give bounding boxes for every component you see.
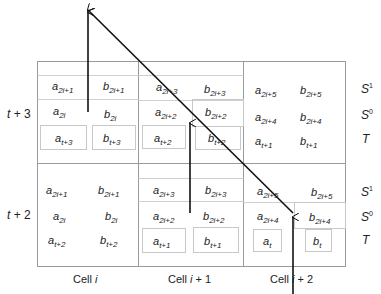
reg-r0c1-tb: bt+2 bbox=[208, 133, 225, 147]
legend-s1-bottom: S1 bbox=[361, 185, 373, 198]
reg-r1c2-ta: at bbox=[263, 236, 271, 250]
reg-r1c2-tb: bt bbox=[313, 236, 321, 250]
reg-r0c1-ta: at+2 bbox=[154, 133, 171, 147]
reg-r1c1-tb: bt+1 bbox=[204, 236, 221, 250]
reg-r0c1-s1a: a2i+3 bbox=[156, 82, 177, 96]
reg-r1c2-s0b: b2i+4 bbox=[309, 212, 330, 226]
reg-r0c0-s0b: b2i bbox=[104, 109, 116, 123]
reg-r1c2-s1a: a2i+5 bbox=[257, 186, 278, 200]
reg-r0c0-s1b: b2i+1 bbox=[103, 81, 124, 95]
reg-r1c0-ta: at+2 bbox=[48, 235, 65, 249]
reg-r1c0-s1b: b2i+1 bbox=[98, 185, 119, 199]
reg-r1c1-s1b: b2i+3 bbox=[205, 185, 226, 199]
reg-r1c1-s1a: a2i+3 bbox=[153, 185, 174, 199]
reg-r0c0-tb: bt+3 bbox=[103, 133, 120, 147]
legend-t-bottom: T bbox=[362, 234, 369, 246]
reg-r1c1-s0b: b2i+2 bbox=[203, 211, 224, 225]
reg-r0c0-s0a: a2i bbox=[53, 106, 65, 120]
reg-r1c1-ta: at+1 bbox=[153, 236, 170, 250]
reg-r0c0-ta: at+3 bbox=[55, 133, 72, 147]
reg-r0c2-s1a: a2i+5 bbox=[255, 85, 276, 99]
legend-s1-top: S1 bbox=[361, 82, 373, 95]
reg-r0c2-tb: bt+1 bbox=[300, 136, 317, 150]
reg-r0c2-s0b: b2i+4 bbox=[300, 112, 321, 126]
reg-r1c2-s0a: a2i+4 bbox=[257, 211, 278, 225]
systolic-cell-diagram: t + 3 t + 2 Cell i Cell i + 1 Cell i + 2… bbox=[0, 0, 381, 294]
reg-r1c1-s0a: a2i+2 bbox=[153, 211, 174, 225]
col-label-cell-i2: Cell i + 2 bbox=[270, 273, 313, 285]
reg-r0c2-ta: at+1 bbox=[255, 136, 272, 150]
reg-r0c1-s1b: b2i+3 bbox=[204, 84, 225, 98]
row-label-t2: t + 2 bbox=[7, 208, 31, 222]
col-label-cell-i: Cell i bbox=[73, 273, 97, 285]
reg-r0c1-s0a: a2i+2 bbox=[155, 107, 176, 121]
reg-r0c2-s0a: a2i+4 bbox=[255, 112, 276, 126]
reg-r1c0-tb: bt+2 bbox=[100, 235, 117, 249]
legend-t-top: T bbox=[362, 133, 369, 145]
diagram-canvas bbox=[0, 0, 381, 294]
reg-r1c0-s1a: a2i+1 bbox=[46, 185, 67, 199]
reg-r1c2-s1b: b2i+5 bbox=[311, 187, 332, 201]
reg-r0c2-s1b: b2i+5 bbox=[300, 85, 321, 99]
col-label-cell-i1: Cell i + 1 bbox=[168, 273, 211, 285]
legend-s0-top: S0 bbox=[361, 108, 373, 121]
legend-s0-bottom: S0 bbox=[361, 210, 373, 223]
reg-r1c0-s0a: a2i bbox=[53, 211, 65, 225]
reg-r0c0-s1a: a2i+1 bbox=[52, 81, 73, 95]
row-label-t3: t + 3 bbox=[7, 107, 31, 121]
reg-r0c1-s0b: b2i+2 bbox=[205, 107, 226, 121]
reg-r1c0-s0b: b2i bbox=[105, 211, 117, 225]
